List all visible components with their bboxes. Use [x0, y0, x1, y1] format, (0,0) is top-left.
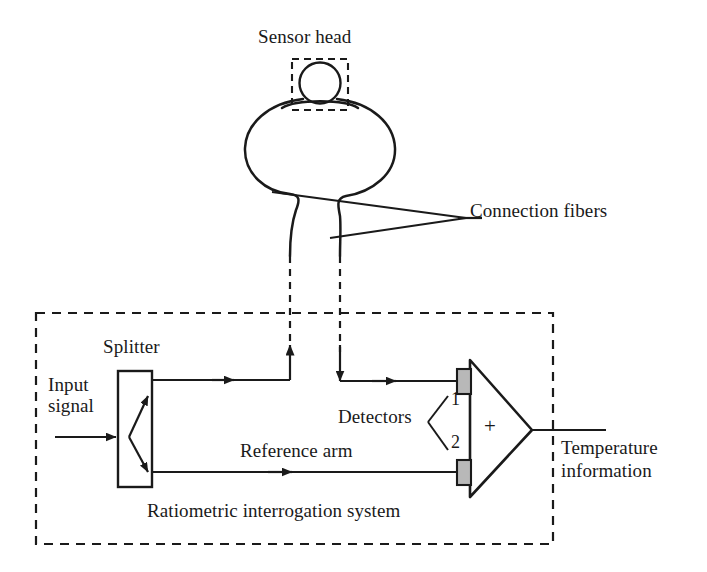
- diagram-canvas: Sensor head Connection fibers Splitter I…: [0, 0, 707, 572]
- system-box-label: Ratiometric interrogation system: [147, 500, 400, 521]
- diagram-vector-layer: [0, 0, 707, 572]
- detector-1-label: 1: [451, 389, 460, 409]
- connection-fibers-label: Connection fibers: [470, 200, 607, 221]
- detector-2-block: [457, 460, 471, 485]
- detector-2-label: 2: [451, 432, 460, 452]
- input-signal-label: Input signal: [48, 374, 94, 417]
- connection-fibers-leader-upper: [272, 192, 466, 218]
- amplifier-plus-symbol: +: [484, 415, 496, 439]
- splitter-label: Splitter: [103, 336, 160, 357]
- detectors-leader-upper: [428, 396, 448, 422]
- fiber-loop-left: [245, 99, 303, 256]
- reference-arm-label: Reference arm: [240, 440, 353, 461]
- sensor-head-circle: [300, 63, 341, 104]
- detectors-leader-lower: [428, 422, 448, 450]
- connection-fibers-leader-lower: [330, 218, 466, 238]
- detectors-label: Detectors: [338, 406, 412, 427]
- sensor-head-label: Sensor head: [258, 26, 351, 47]
- amplifier-triangle: [470, 360, 532, 497]
- temperature-information-label: Temperature information: [561, 437, 658, 483]
